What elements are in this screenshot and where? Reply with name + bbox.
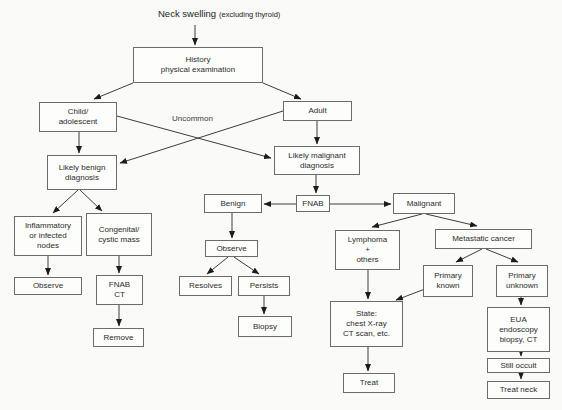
figure-title: Neck swelling (excluding thyroid) bbox=[158, 8, 280, 19]
node-metastatic-cancer: Metastatic cancer bbox=[435, 229, 532, 249]
node-treat-neck: Treat neck bbox=[487, 381, 550, 399]
node-treat: Treat bbox=[343, 373, 395, 393]
node-biopsy: Biopsy bbox=[238, 316, 292, 337]
edge-metastatic-primary-unknown bbox=[486, 249, 518, 262]
node-primary-unknown: Primary unknown bbox=[496, 265, 548, 297]
node-observe-mid: Observe bbox=[205, 240, 258, 257]
uncommon-label: Uncommon bbox=[172, 114, 213, 123]
node-likely-benign-diagnosis: Likely benign diagnosis bbox=[47, 155, 117, 190]
edge-benign-dx-inflammatory bbox=[53, 190, 78, 213]
edge-malignant-lymphoma bbox=[372, 214, 422, 227]
edge-history-adult bbox=[263, 83, 301, 99]
flowchart-edges bbox=[0, 0, 562, 410]
figure-title-qualifier: (excluding thyroid) bbox=[219, 10, 280, 19]
figure-title-text: Neck swelling bbox=[158, 8, 216, 19]
edge-malignant-metastatic bbox=[426, 214, 477, 226]
node-congenital-cystic-mass: Congenital/ cystic mass bbox=[86, 213, 152, 256]
edge-history-child bbox=[94, 83, 133, 99]
node-still-occult: Still occult bbox=[487, 358, 550, 373]
node-fnab-ct: FNAB CT bbox=[96, 275, 143, 305]
node-benign: Benign bbox=[204, 194, 262, 213]
node-persists: Persists bbox=[238, 276, 290, 296]
edge-observe-persists bbox=[234, 257, 259, 274]
edge-metastatic-primary-known bbox=[456, 249, 482, 262]
node-state-workup: State: chest X-ray CT scan, etc. bbox=[330, 301, 403, 347]
node-child-adolescent: Child/ adolescent bbox=[39, 102, 117, 132]
node-observe-left: Observe bbox=[14, 277, 82, 295]
edge-benign-dx-congenital bbox=[80, 190, 102, 211]
node-primary-known: Primary known bbox=[423, 265, 473, 297]
node-resolves: Resolves bbox=[179, 276, 232, 296]
node-adult: Adult bbox=[283, 101, 352, 121]
node-inflammatory-nodes: Inflammatory or infected nodes bbox=[14, 216, 82, 256]
node-malignant: Malignant bbox=[393, 193, 455, 214]
node-remove: Remove bbox=[93, 328, 144, 347]
flowchart-neck-swelling: Neck swelling (excluding thyroid) Uncomm… bbox=[0, 0, 562, 410]
edge-primary-known-state bbox=[396, 289, 425, 300]
node-eua-endoscopy: EUA endoscopy biopsy, CT bbox=[487, 307, 550, 352]
node-fnab: FNAB bbox=[296, 195, 330, 212]
node-history: History physical examination bbox=[133, 47, 263, 83]
node-lymphoma-others: Lymphoma + others bbox=[335, 230, 400, 270]
node-likely-malignant-diagnosis: Likely malignant diagnosis bbox=[274, 146, 360, 175]
edge-observe-resolves bbox=[207, 257, 228, 274]
